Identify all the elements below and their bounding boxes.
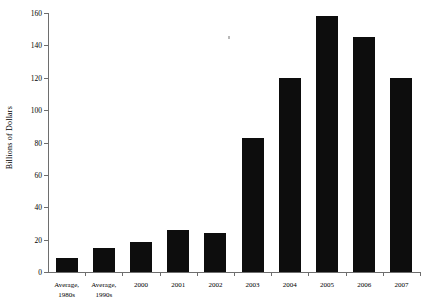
x-axis-label: 2007: [372, 281, 430, 291]
y-axis-tick-label: 80: [35, 138, 43, 147]
bar: [130, 242, 152, 272]
bar: [279, 78, 301, 272]
x-axis-tick: [197, 272, 198, 276]
y-axis-line: [48, 13, 49, 272]
bar: [167, 230, 189, 272]
y-axis-tick: [44, 78, 48, 79]
y-axis-tick: [44, 143, 48, 144]
x-axis-tick: [122, 272, 123, 276]
bar: [316, 16, 338, 272]
scan-artifact-speck: [228, 36, 230, 39]
y-axis-tick-label: 0: [38, 268, 42, 277]
x-axis-tick: [234, 272, 235, 276]
y-axis-tick: [44, 240, 48, 241]
bar: [390, 78, 412, 272]
y-axis-title-text: Billions of Dollars: [5, 106, 14, 169]
y-axis-tick: [44, 110, 48, 111]
x-axis-label-line1: 2001: [171, 281, 185, 289]
y-axis-tick-label: 40: [35, 203, 43, 212]
x-axis-tick: [383, 272, 384, 276]
x-axis-label-line1: 2000: [134, 281, 148, 289]
bar: [353, 37, 375, 272]
x-axis-tick: [271, 272, 272, 276]
x-axis-tick: [160, 272, 161, 276]
y-axis-tick: [44, 45, 48, 46]
bar: [56, 258, 78, 272]
plot-area: 020406080100120140160 Average,1980sAvera…: [48, 13, 420, 272]
y-axis-tick: [44, 272, 48, 273]
bar: [93, 248, 115, 272]
x-axis-label-line1: 2003: [246, 281, 260, 289]
x-axis-tick: [346, 272, 347, 276]
x-axis-label-line1: 2005: [320, 281, 334, 289]
y-axis-tick: [44, 175, 48, 176]
x-axis-label-line1: 2002: [208, 281, 222, 289]
y-axis-tick: [44, 13, 48, 14]
y-axis-tick-label: 100: [31, 106, 42, 115]
x-axis-label-line1: 2006: [357, 281, 371, 289]
bar-chart-figure: Billions of Dollars 02040608010012014016…: [0, 0, 436, 303]
y-axis-tick: [44, 207, 48, 208]
x-axis-tick: [420, 272, 421, 276]
y-axis-title: Billions of Dollars: [0, 0, 18, 275]
x-axis-tick: [308, 272, 309, 276]
bar: [204, 233, 226, 272]
y-axis-tick-label: 20: [35, 235, 43, 244]
x-axis-label-line2: 1990s: [75, 291, 133, 301]
y-axis-tick-label: 140: [31, 41, 42, 50]
y-axis-tick-label: 120: [31, 73, 42, 82]
bar: [242, 138, 264, 272]
y-axis-tick-label: 60: [35, 170, 43, 179]
y-axis-tick-label: 160: [31, 9, 42, 18]
x-axis-label-line1: 2004: [283, 281, 297, 289]
x-axis-tick: [85, 272, 86, 276]
x-axis-label-line1: 2007: [394, 281, 408, 289]
